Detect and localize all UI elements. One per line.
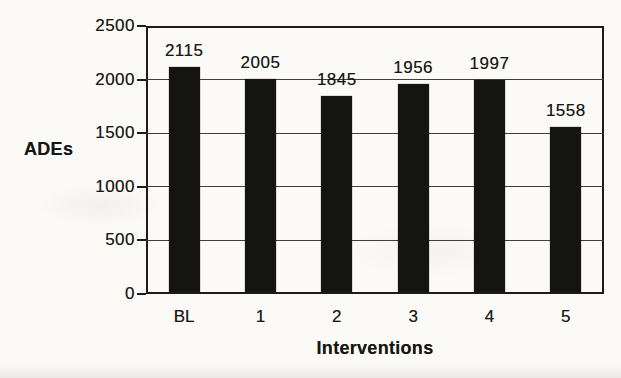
y-axis-tick-0 <box>137 293 146 295</box>
bar-value-label: 1997 <box>451 54 527 74</box>
bar-4 <box>474 80 505 292</box>
y-axis-tick-2000 <box>137 79 146 81</box>
gridline-2000 <box>146 79 604 80</box>
y-axis-tick-1000 <box>137 186 146 188</box>
bar-5 <box>550 127 581 292</box>
x-tick-label: 1 <box>222 307 298 327</box>
gridline-1000 <box>146 186 604 187</box>
bar-BL <box>169 67 200 292</box>
y-tick-label: 2000 <box>75 70 135 90</box>
bar-value-label: 2005 <box>222 53 298 73</box>
y-tick-label: 1000 <box>75 177 135 197</box>
bar-value-label: 1845 <box>299 70 375 90</box>
gridline-1500 <box>146 133 604 134</box>
x-tick-label: BL <box>146 307 222 327</box>
bar-1 <box>245 79 276 292</box>
y-tick-label: 1500 <box>75 123 135 143</box>
x-tick-label: 2 <box>299 307 375 327</box>
y-axis-tick-500 <box>137 239 146 241</box>
x-tick-label: 5 <box>528 307 604 327</box>
x-tick-label: 4 <box>451 307 527 327</box>
bar-3 <box>398 84 429 292</box>
bar-value-label: 1558 <box>528 101 604 121</box>
gridline-500 <box>146 240 604 241</box>
y-tick-label: 500 <box>75 230 135 250</box>
bar-2 <box>321 96 352 292</box>
bar-value-label: 1956 <box>375 58 451 78</box>
x-axis-title: Interventions <box>146 338 604 359</box>
y-tick-label: 0 <box>75 284 135 304</box>
y-tick-label: 2500 <box>75 16 135 36</box>
x-tick-label: 3 <box>375 307 451 327</box>
bar-value-label: 2115 <box>146 41 222 61</box>
y-axis-tick-2500 <box>137 25 146 27</box>
y-axis-title: ADEs <box>24 139 73 160</box>
y-axis-tick-1500 <box>137 132 146 134</box>
bar-chart-figure: ADEs 050010001500200025002115BL200511845… <box>0 0 621 378</box>
